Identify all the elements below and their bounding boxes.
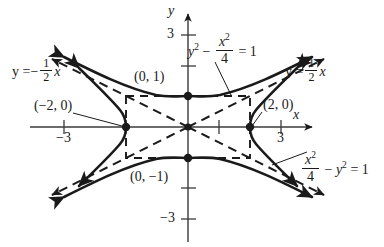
- point-dot-0-1: [184, 92, 192, 100]
- origin-dot: [184, 123, 191, 130]
- asymptote-neg-half-x-lower-left: [52, 127, 188, 195]
- equation-horizontal-hyperbola: x2 4 − y2 = 1: [300, 152, 369, 184]
- heq-fraction: x2 4: [302, 152, 319, 184]
- heq-numerator: x2: [302, 152, 319, 169]
- hyperbola-figure: x y −3 3 3 −3 (0, 1) (0, −1) (−2, 0) (2,…: [0, 0, 384, 247]
- asymptote-right-denominator: 2: [305, 71, 317, 84]
- asymptote-left-sign: −: [30, 64, 38, 79]
- axis-lines: [30, 14, 312, 242]
- heq-denominator: 4: [302, 169, 319, 185]
- point-label-right-vertex: (2, 0): [263, 98, 293, 112]
- asymptote-left-numerator: 1: [40, 57, 52, 71]
- asymptote-left-fraction: 1 2: [40, 57, 52, 85]
- asymptote-right-variable: x: [319, 64, 325, 79]
- point-label-left-vertex: (−2, 0): [34, 99, 72, 113]
- heq-operator: −: [324, 162, 332, 177]
- asymptote-neg-half-x-upper-left: [52, 59, 188, 127]
- veq-lead-exponent: 2: [194, 42, 199, 52]
- veq-tail: = 1: [238, 44, 256, 59]
- asymptote-left-denominator: 2: [40, 71, 52, 84]
- point-dot-0--1: [184, 154, 192, 162]
- point-label-top-vertex: (0, 1): [134, 70, 164, 84]
- veq-operator: −: [202, 44, 210, 59]
- x-axis-label: x: [293, 108, 299, 122]
- y-axis-label: y: [168, 4, 174, 18]
- asymptote-label-left: y =− 1 2 x: [12, 57, 61, 85]
- heq-lead-exponent: 2: [342, 160, 347, 170]
- asymptote-right-fraction: 1 2: [305, 57, 317, 85]
- x-tick-label-3: 3: [277, 131, 284, 145]
- asymptote-right-numerator: 1: [305, 57, 317, 71]
- veq-numerator: x2: [216, 34, 233, 51]
- point-label-bottom-vertex: (0, −1): [130, 170, 168, 184]
- leader-vertical-equation: [215, 62, 231, 95]
- leader-left-vertex: [73, 113, 122, 126]
- veq-fraction: x2 4: [216, 34, 233, 66]
- point-dot--2-0: [122, 123, 130, 131]
- x-tick-label--3: −3: [56, 131, 71, 145]
- asymptote-right-prefix: y =: [285, 64, 303, 79]
- equation-vertical-hyperbola: y2 − x2 4 = 1: [188, 34, 257, 66]
- asymptote-label-right: y = 1 2 x: [285, 57, 326, 85]
- y-tick-label--3: −3: [160, 211, 175, 225]
- heq-tail: = 1: [350, 162, 368, 177]
- veq-denominator: 4: [216, 51, 233, 67]
- asymptote-left-prefix: y =: [12, 64, 30, 79]
- y-tick-label-3: 3: [167, 27, 174, 41]
- asymptote-left-variable: x: [54, 64, 60, 79]
